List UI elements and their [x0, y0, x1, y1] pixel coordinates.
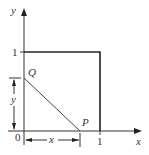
y-axis-label: y — [10, 4, 16, 16]
segment-QP — [24, 78, 80, 131]
x-tick-label: 1 — [97, 135, 103, 147]
x-dimension-label: x — [48, 133, 54, 145]
y-dimension-label: y — [10, 93, 16, 105]
point-Q-label: Q — [28, 66, 36, 78]
y-tick-label: 1 — [12, 46, 18, 58]
x-axis-arrow-icon — [134, 128, 142, 134]
arrow-down-icon — [12, 123, 16, 130]
arrow-up-icon — [12, 79, 16, 86]
arrow-left-icon — [25, 138, 32, 142]
origin-label: 0 — [15, 131, 21, 143]
unit-square-diagram: y x 1 1 0 Q P y x — [0, 0, 149, 155]
arrow-right-icon — [72, 138, 79, 142]
point-P-label: P — [81, 116, 89, 128]
y-axis-arrow-icon — [21, 8, 27, 16]
x-axis-label: x — [135, 135, 141, 147]
